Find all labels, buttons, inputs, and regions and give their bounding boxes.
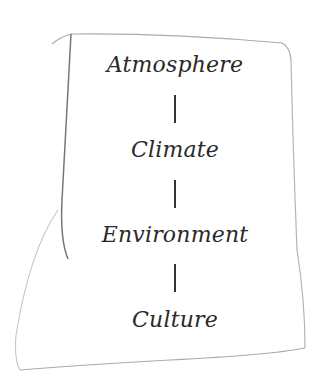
connector-line [174, 180, 176, 208]
node-environment: Environment [0, 222, 326, 247]
connector-line [174, 264, 176, 292]
connector-line [174, 95, 176, 123]
node-atmosphere: Atmosphere [0, 52, 326, 77]
node-climate: Climate [0, 137, 326, 162]
node-culture: Culture [0, 307, 326, 332]
